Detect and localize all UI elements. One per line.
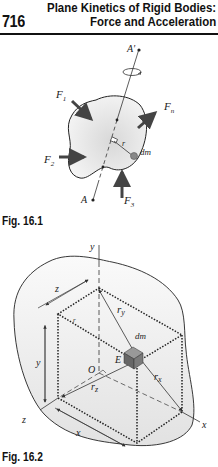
chapter-title-line1: Plane Kinetics of Rigid Bodies: <box>47 1 216 15</box>
page-header: 716 Plane Kinetics of Rigid Bodies: Forc… <box>0 0 218 36</box>
label-z-dim: z <box>54 283 59 294</box>
label-E: E <box>114 354 121 365</box>
label-r: r <box>73 316 76 324</box>
label-x-dim: x <box>75 427 81 438</box>
svg-text:Fn: Fn <box>163 100 175 115</box>
svg-text:F2: F2 <box>43 153 55 168</box>
body-outline <box>14 256 194 445</box>
figure-16-2-caption: Fig. 16.2 <box>2 450 43 464</box>
figure-16-1: A′ A F1 F2 F3 Fn r dm <box>0 35 218 215</box>
figure-16-2: y z r ry dm E O rx rz y z x x <box>0 232 218 447</box>
label-dm: dm <box>140 147 152 157</box>
svg-text:F3: F3 <box>123 194 135 209</box>
figure-16-1-caption: Fig. 16.1 <box>2 214 43 228</box>
chapter-title-line2: Force and Acceleration <box>47 15 216 29</box>
chapter-title: Plane Kinetics of Rigid Bodies: Force an… <box>47 1 216 29</box>
label-A: A <box>80 194 88 205</box>
page-number: 716 <box>2 12 25 32</box>
label-z-axis: z <box>21 414 26 425</box>
svg-text:F1: F1 <box>55 88 66 103</box>
label-dm: dm <box>135 331 147 341</box>
label-O: O <box>88 364 95 375</box>
label-x-axis: x <box>201 419 207 430</box>
label-A-prime: A′ <box>126 43 136 54</box>
label-y-axis: y <box>89 241 95 252</box>
label-y-dim: y <box>35 357 41 368</box>
